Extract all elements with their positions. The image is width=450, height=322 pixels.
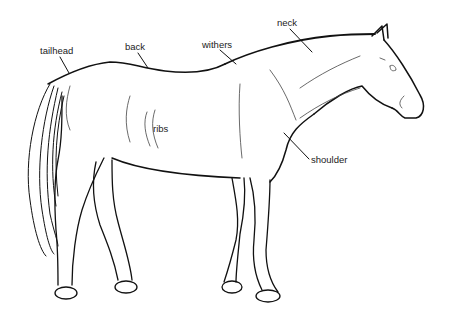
tail [28, 84, 64, 256]
contour-lines [66, 56, 404, 158]
front-legs [222, 178, 280, 302]
horse-anatomy-diagram: tailhead back withers neck ribs shoulder [0, 0, 450, 322]
label-tailhead: tailhead [40, 46, 73, 56]
hind-legs [55, 96, 137, 299]
label-neck: neck [277, 18, 297, 28]
label-back: back [125, 42, 145, 52]
label-shoulder: shoulder [311, 155, 347, 165]
leader-lines [60, 29, 312, 159]
label-withers: withers [202, 40, 232, 50]
label-ribs: ribs [153, 124, 168, 134]
